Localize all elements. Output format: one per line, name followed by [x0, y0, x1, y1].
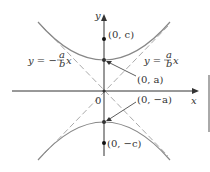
svg-text:b: b	[166, 58, 172, 69]
svg-text:b: b	[59, 58, 65, 69]
svg-text:y =: y =	[143, 55, 161, 66]
x-axis-arrow-icon	[192, 88, 199, 94]
focus-lower	[102, 141, 106, 145]
vertex-upper	[102, 58, 106, 62]
y-axis-arrow-icon	[101, 14, 107, 21]
vertex-lower	[102, 120, 106, 124]
svg-text:y = −: y = −	[27, 55, 57, 66]
origin-label: 0	[95, 95, 101, 106]
label-focus-upper: (0, c)	[108, 29, 134, 40]
y-axis-label: y	[94, 10, 101, 21]
pointer-vertex-lower	[108, 102, 136, 120]
label-vertex-upper: (0, a)	[137, 74, 164, 85]
focus-upper	[102, 37, 106, 41]
pointer-arrow-icon	[106, 61, 112, 65]
origin-point	[103, 90, 106, 93]
asymptote-label-left: y = − a b x	[27, 49, 72, 69]
svg-text:x: x	[173, 55, 179, 66]
svg-text:x: x	[66, 55, 72, 66]
x-axis-label: x	[191, 95, 197, 106]
hyperbola-diagram: y x 0 (0, c) (0, a) (0, −a) (0, −c) y = …	[0, 0, 210, 172]
label-vertex-lower: (0, −a)	[137, 94, 172, 105]
label-focus-lower: (0, −c)	[107, 138, 142, 149]
asymptote-label-right: y = a b x	[143, 49, 179, 69]
